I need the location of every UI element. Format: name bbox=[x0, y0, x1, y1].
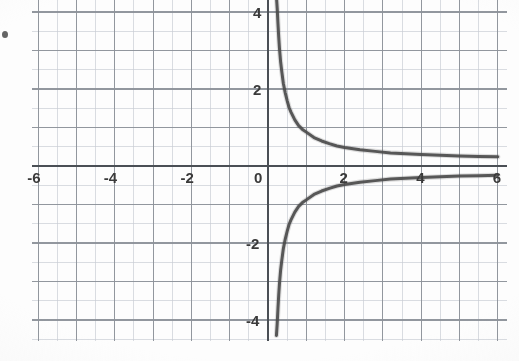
x-tick-label: 4 bbox=[416, 169, 425, 186]
scan-speck bbox=[2, 31, 8, 38]
x-tick-label: 2 bbox=[340, 169, 348, 186]
y-tick-label: -2 bbox=[246, 235, 259, 252]
y-tick-label: 4 bbox=[253, 4, 262, 21]
plot-canvas: -6-4-2024642-2-4 bbox=[0, 0, 519, 361]
curve-upper-branch bbox=[276, 0, 497, 157]
x-tick-label: 0 bbox=[254, 169, 262, 186]
curve-lower-branch bbox=[276, 175, 497, 335]
x-tick-label: 6 bbox=[493, 169, 501, 186]
graph-figure: -6-4-2024642-2-4 bbox=[0, 0, 519, 361]
x-tick-label: -2 bbox=[180, 169, 193, 186]
x-tick-label: -4 bbox=[104, 169, 118, 186]
x-tick-label: -6 bbox=[27, 169, 40, 186]
y-tick-label: 2 bbox=[253, 81, 261, 98]
y-tick-label: -4 bbox=[246, 312, 260, 329]
